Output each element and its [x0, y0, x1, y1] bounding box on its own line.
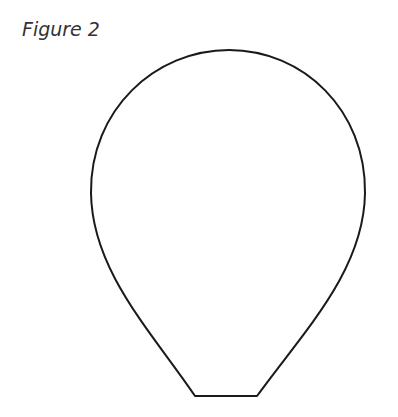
balloon-outline: [91, 50, 365, 396]
balloon-outline-shape: [0, 0, 398, 417]
